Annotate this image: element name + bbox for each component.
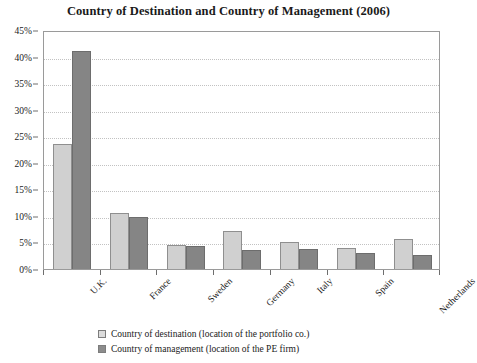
x-tick-label: Sweden <box>206 276 234 304</box>
bar <box>337 248 356 269</box>
bar-group <box>271 32 328 269</box>
bar <box>53 144 72 269</box>
x-tick-label: France <box>148 276 173 301</box>
y-tick-label: 5% <box>19 238 32 248</box>
bar <box>356 253 375 269</box>
bar <box>72 51 91 269</box>
y-tick-mark <box>33 190 38 191</box>
chart-title: Country of Destination and Country of Ma… <box>0 4 457 19</box>
legend-item: Country of management (location of the P… <box>98 341 398 356</box>
legend-label: Country of management (location of the P… <box>111 344 299 354</box>
x-tick-label: Italy <box>315 276 334 295</box>
legend-swatch <box>98 330 106 338</box>
y-tick-mark <box>33 243 38 244</box>
y-tick-mark <box>33 84 38 85</box>
bar-group <box>101 32 158 269</box>
bar <box>242 250 261 269</box>
legend-label: Country of destination (location of the … <box>111 329 309 339</box>
bar-group <box>328 32 385 269</box>
bar <box>110 213 129 269</box>
chart-legend: Country of destination (location of the … <box>98 326 398 356</box>
bar <box>394 239 413 269</box>
bar <box>280 242 299 269</box>
y-axis: 0%5%10%15%20%25%30%35%40%45% <box>0 31 38 270</box>
y-tick-label: 25% <box>15 132 32 142</box>
bar-group <box>214 32 271 269</box>
legend-item: Country of destination (location of the … <box>98 326 398 341</box>
x-axis-labels: U.K.FranceSwedenGermanyItalySpainNetherl… <box>43 272 440 318</box>
y-tick-mark <box>33 163 38 164</box>
y-tick-mark <box>33 137 38 138</box>
x-tick-label: Spain <box>373 276 395 298</box>
y-tick-mark <box>33 31 38 32</box>
y-tick-label: 15% <box>15 185 32 195</box>
bar <box>299 249 318 269</box>
y-tick-mark <box>33 216 38 217</box>
y-tick-mark <box>33 270 38 271</box>
legend-swatch <box>98 345 106 353</box>
y-tick-mark <box>33 110 38 111</box>
bar <box>223 231 242 269</box>
x-tick-label: Netherlands <box>437 276 477 316</box>
bar <box>129 217 148 269</box>
y-tick-label: 20% <box>15 159 32 169</box>
y-tick-label: 40% <box>15 53 32 63</box>
bar-group <box>157 32 214 269</box>
plot-area <box>43 31 440 270</box>
x-tick-label: U.K. <box>89 276 109 296</box>
bars-layer <box>44 32 439 269</box>
y-tick-label: 30% <box>15 106 32 116</box>
x-tick-label: Germany <box>264 276 296 308</box>
bar-group <box>384 32 441 269</box>
bar-group <box>44 32 101 269</box>
bar <box>413 255 432 269</box>
y-tick-label: 10% <box>15 212 32 222</box>
y-tick-mark <box>33 57 38 58</box>
y-tick-label: 35% <box>15 79 32 89</box>
y-tick-label: 0% <box>19 265 32 275</box>
bar <box>186 246 205 269</box>
y-tick-label: 45% <box>15 26 32 36</box>
bar <box>167 245 186 269</box>
